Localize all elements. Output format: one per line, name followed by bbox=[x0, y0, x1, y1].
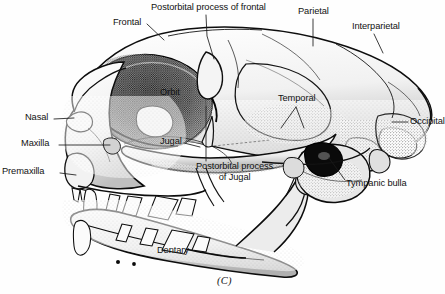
label-tympanic-bulla: Tympanic bulla bbox=[346, 178, 407, 189]
figure-caption: (C) bbox=[217, 275, 232, 286]
label-frontal: Frontal bbox=[113, 17, 141, 28]
label-premaxilla: Premaxilla bbox=[2, 166, 44, 177]
mental-foramen-2 bbox=[132, 262, 136, 266]
infraorbital-foramen bbox=[103, 138, 120, 154]
label-jugal: Jugal bbox=[160, 136, 182, 147]
label-orbit: Orbit bbox=[160, 87, 180, 98]
postglenoid-process bbox=[283, 157, 304, 178]
label-occipital: Occipital bbox=[410, 116, 445, 127]
label-temporal: Temporal bbox=[278, 93, 315, 104]
label-parietal: Parietal bbox=[298, 6, 329, 17]
label-nasal: Nasal bbox=[25, 112, 48, 123]
skull-illustration bbox=[0, 0, 445, 294]
skull-figure: Postorbital process of frontal Frontal P… bbox=[0, 0, 445, 294]
meatus-highlight bbox=[318, 152, 330, 160]
label-maxilla: Maxilla bbox=[21, 138, 49, 149]
label-postorbital-process-of-jugal: Postorbital process of Jugal bbox=[196, 161, 273, 184]
label-dentary: Dentary bbox=[157, 245, 189, 256]
label-postorbital-process-of-frontal: Postorbital process of frontal bbox=[151, 2, 266, 13]
leader-interparietal bbox=[374, 34, 383, 53]
upper-incisor-1 bbox=[72, 188, 80, 202]
label-interparietal: Interparietal bbox=[352, 21, 400, 32]
mental-foramen-1 bbox=[116, 260, 120, 264]
lower-canine bbox=[73, 220, 90, 255]
maxillary-toothrow bbox=[78, 186, 206, 196]
